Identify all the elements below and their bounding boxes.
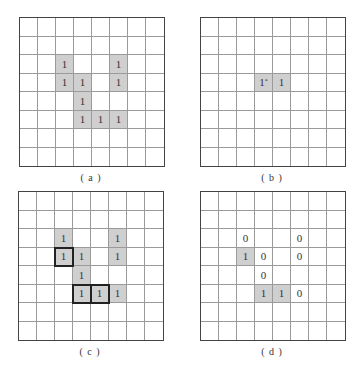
grid-cell (309, 92, 327, 111)
grid-cell (327, 111, 345, 130)
grid-panel-a: 111111111 (19, 17, 165, 167)
grid-cell (273, 129, 291, 148)
grid-cell (145, 303, 163, 322)
grid-cell (291, 129, 309, 148)
grid-cell (146, 129, 164, 148)
grid-cell: 1 (109, 248, 127, 267)
seed-marker: * (265, 78, 268, 84)
grid-cell (291, 322, 309, 341)
grid-cell (128, 55, 146, 74)
grid-cell (55, 211, 73, 230)
grid-cell (201, 211, 219, 230)
grid-cell (273, 229, 291, 248)
grid-cell: 1 (55, 229, 73, 248)
grid-cell (255, 129, 273, 148)
grid-cell (273, 18, 291, 37)
cell-value: 1 (79, 269, 85, 281)
grid-cell (291, 111, 309, 130)
grid-cell (201, 285, 219, 304)
grid-cell (219, 211, 237, 230)
cell-value: 1 (116, 58, 122, 70)
grid-cell (37, 248, 55, 267)
grid-cell (91, 303, 109, 322)
grid-cell: 1 (237, 248, 255, 267)
grid-cell (38, 92, 56, 111)
grid-cell (327, 285, 345, 304)
grid-cell (237, 211, 255, 230)
grid-cell (327, 148, 345, 167)
grid-cell (127, 229, 145, 248)
cell-value: 1 (62, 76, 68, 88)
grid-cell (38, 148, 56, 167)
cell-value: 1 (62, 58, 68, 70)
grid-cell (327, 303, 345, 322)
grid-cell (127, 211, 145, 230)
grid-cell (309, 285, 327, 304)
grid-cell (291, 192, 309, 211)
grid-cell: 1 (74, 92, 92, 111)
grid-cell (145, 248, 163, 267)
grid-cell (37, 211, 55, 230)
grid-cell (92, 129, 110, 148)
grid-cell: 1 (74, 111, 92, 130)
grid-cell (38, 37, 56, 56)
grid-cell (237, 129, 255, 148)
cell-value: 0 (297, 232, 303, 244)
grid-cell (146, 18, 164, 37)
grid-cell: 1 (91, 285, 109, 304)
grid-cell (219, 303, 237, 322)
grid-panel-d: 001000110 (200, 191, 346, 341)
grid-cell (327, 211, 345, 230)
grid-cell (309, 55, 327, 74)
grid-cell: 1 (55, 248, 73, 267)
grid-cell: 1 (273, 285, 291, 304)
grid-cell (146, 148, 164, 167)
grid-cell (219, 248, 237, 267)
grid-cell (291, 74, 309, 93)
grid-cell: 1 (110, 55, 128, 74)
grid-cell: 1 (56, 74, 74, 93)
grid-cell: 1 (110, 111, 128, 130)
grid-cell (291, 148, 309, 167)
grid-cell (201, 111, 219, 130)
grid-cell (309, 111, 327, 130)
grid-cell (201, 303, 219, 322)
grid-cell: 0 (291, 248, 309, 267)
grid-cell (19, 211, 37, 230)
grid-cell: 0 (291, 285, 309, 304)
grid-cell (273, 266, 291, 285)
grid-cell (56, 129, 74, 148)
grid-cell (309, 266, 327, 285)
cell-value: 1 (279, 287, 285, 299)
grid-cell (201, 266, 219, 285)
grid-cell (255, 111, 273, 130)
grid-cell (327, 248, 345, 267)
grid-cell (19, 322, 37, 341)
grid-cell: 0 (237, 229, 255, 248)
grid-cell (92, 55, 110, 74)
grid-cell (109, 192, 127, 211)
grid-cell (273, 322, 291, 341)
grid-cell (74, 148, 92, 167)
grid-cell (38, 74, 56, 93)
grid-cell (327, 55, 345, 74)
grid-cell: 1 (255, 285, 273, 304)
grid-cell (201, 248, 219, 267)
cell-value: 1 (115, 232, 121, 244)
grid-cell (19, 285, 37, 304)
cell-value: 0 (261, 250, 267, 262)
grid-cell (237, 192, 255, 211)
grid-cell (20, 18, 38, 37)
grid-cell (109, 211, 127, 230)
grid-cell (309, 74, 327, 93)
grid-cell (291, 37, 309, 56)
grid-cell (309, 229, 327, 248)
grid-cell (201, 74, 219, 93)
cell-value: 1 (116, 76, 122, 88)
grid-cell (273, 55, 291, 74)
panel-caption-b: ( b ) (242, 172, 302, 183)
grid-cell (127, 266, 145, 285)
grid-cell: 0 (255, 266, 273, 285)
grid-cell (255, 229, 273, 248)
grid-cell (219, 192, 237, 211)
